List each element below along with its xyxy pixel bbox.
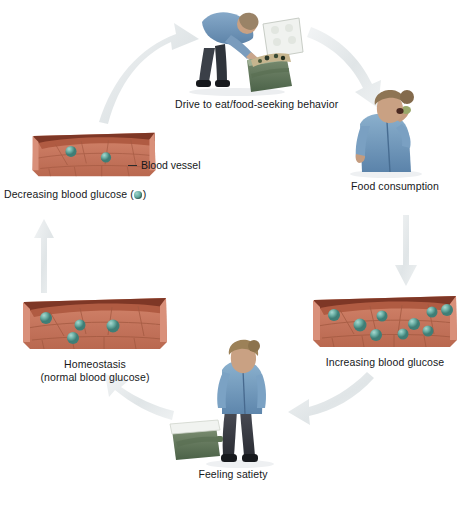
stage-homeostasis[interactable]: Homeostasis (normal blood glucose) — [20, 292, 170, 383]
glucose-legend-icon — [134, 191, 142, 199]
callout-label-blood-vessel: Blood vessel — [141, 159, 201, 171]
blood-vessel-increasing-illustration — [310, 290, 460, 352]
stage-drive-to-eat[interactable]: Drive to eat/food-seeking behavior — [175, 2, 310, 111]
stage-feeling-satiety[interactable]: Feeling satiety — [168, 338, 298, 481]
arrow-homeostasis-to-decreasing — [34, 219, 54, 293]
arrow-food-to-increasing — [395, 215, 417, 286]
stage-label-homeostasis-line2: (normal blood glucose) — [20, 371, 170, 384]
stage-label-homeostasis-line1: Homeostasis — [20, 358, 170, 371]
stage-label-increasing-blood-glucose: Increasing blood glucose — [310, 356, 460, 369]
decreasing-label-prefix: Decreasing blood glucose ( — [4, 188, 134, 200]
blood-vessel-homeostasis-illustration — [20, 292, 170, 354]
person-eating-illustration — [330, 88, 460, 178]
stage-label-drive-to-eat: Drive to eat/food-seeking behavior — [175, 98, 310, 111]
stage-increasing-blood-glucose[interactable]: Increasing blood glucose — [310, 290, 460, 369]
arrow-increasing-to-satiety — [288, 372, 374, 425]
callout-leader-line — [128, 165, 137, 166]
person-standing-with-cooler-illustration — [168, 338, 298, 468]
stage-food-consumption[interactable]: Food consumption — [330, 88, 460, 193]
decreasing-label-suffix: ) — [143, 188, 147, 200]
stage-label-food-consumption: Food consumption — [330, 180, 460, 193]
stage-label-feeling-satiety: Feeling satiety — [168, 468, 298, 481]
blood-vessel-decreasing-illustration — [30, 126, 190, 182]
stage-label-decreasing-blood-glucose: Decreasing blood glucose () — [4, 188, 190, 201]
person-bending-over-cooler-illustration — [175, 2, 310, 96]
callout-blood-vessel: Blood vessel — [128, 159, 201, 171]
